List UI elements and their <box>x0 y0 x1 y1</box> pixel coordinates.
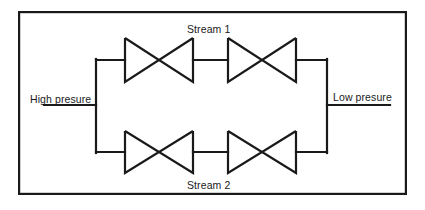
valve-body-right-triangle <box>262 131 296 173</box>
valve-body-left-triangle <box>125 38 159 82</box>
stream-1-label: Stream 1 <box>187 24 230 35</box>
valve-body-left-triangle <box>125 131 159 173</box>
valve-body-left-triangle <box>228 131 262 173</box>
diagram-figure: High presure Low presure Stream 1 Stream… <box>0 0 425 210</box>
valve-body-left-triangle <box>228 38 262 82</box>
valve-body-right-triangle <box>159 38 193 82</box>
valve-body-right-triangle <box>262 38 296 82</box>
valve-stream2-left <box>125 131 193 173</box>
valve-stream1-right <box>228 38 296 82</box>
high-pressure-label: High presure <box>30 94 91 105</box>
valve-body-right-triangle <box>159 131 193 173</box>
valve-stream2-right <box>228 131 296 173</box>
low-pressure-label: Low presure <box>333 92 392 103</box>
valve-stream1-left <box>125 38 193 82</box>
stream-2-label: Stream 2 <box>187 180 230 191</box>
